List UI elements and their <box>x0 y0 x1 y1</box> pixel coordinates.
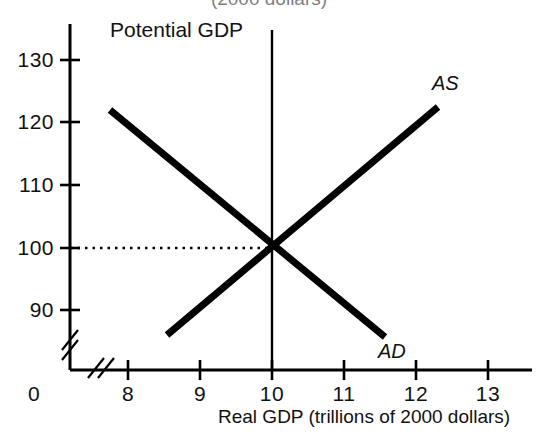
x-tick-label-8: 8 <box>122 382 134 406</box>
x-tick-label-11: 11 <box>333 382 356 406</box>
as-curve <box>167 107 438 335</box>
x-axis-title: Real GDP (trillions of 2000 dollars) <box>218 406 510 428</box>
y-tick-label-100: 100 <box>2 236 54 260</box>
as-ad-chart-figure: (2000 dollars) <box>0 0 538 436</box>
y-tick-label-110: 110 <box>2 173 54 197</box>
x-axis-break-icon <box>88 358 114 378</box>
x-tick-label-13: 13 <box>476 382 500 406</box>
y-tick-label-90: 90 <box>2 298 54 322</box>
x-tick-label-10: 10 <box>260 382 284 406</box>
chart-plot-area <box>0 0 538 436</box>
as-curve-label: AS <box>432 72 459 95</box>
x-tick-label-9: 9 <box>194 382 206 406</box>
potential-gdp-label: Potential GDP <box>110 18 243 42</box>
ad-curve <box>110 110 385 337</box>
y-tick-label-130: 130 <box>2 48 54 72</box>
x-tick-label-12: 12 <box>404 382 428 406</box>
origin-label: 0 <box>28 382 40 406</box>
y-tick-label-120: 120 <box>2 110 54 134</box>
ad-curve-label: AD <box>378 340 406 363</box>
